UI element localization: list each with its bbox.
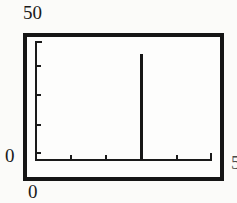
- x-axis-line: [35, 159, 212, 161]
- x-axis-tick: [176, 155, 178, 159]
- x-axis-min-label: 0: [28, 182, 38, 201]
- y-axis-tick: [37, 94, 41, 96]
- x-axis-tick: [70, 155, 72, 159]
- x-axis-end-hook: [210, 153, 212, 160]
- data-spike: [140, 54, 143, 160]
- x-axis-max-label-partial: 5: [231, 153, 237, 172]
- y-axis-max-label: 50: [23, 3, 42, 22]
- y-axis-top-hook: [35, 41, 42, 43]
- y-axis-tick: [37, 152, 41, 154]
- y-axis-tick: [37, 124, 41, 126]
- calculator-graph-figure: 50 0 0 5: [0, 0, 237, 203]
- x-axis-tick: [105, 155, 107, 159]
- y-axis-tick: [37, 65, 41, 67]
- y-axis-min-label: 0: [5, 146, 15, 165]
- y-axis-line: [35, 41, 37, 161]
